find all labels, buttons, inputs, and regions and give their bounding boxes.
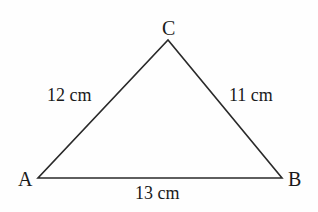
side-label-ac: 12 cm (47, 86, 92, 104)
vertex-label-b: B (288, 169, 301, 189)
side-label-ab: 13 cm (135, 184, 180, 202)
triangle-diagram: C A B 12 cm 11 cm 13 cm (0, 0, 318, 212)
triangle-shape (0, 0, 318, 212)
side-label-bc: 11 cm (229, 86, 273, 104)
vertex-label-c: C (162, 18, 175, 38)
vertex-label-a: A (18, 169, 32, 189)
